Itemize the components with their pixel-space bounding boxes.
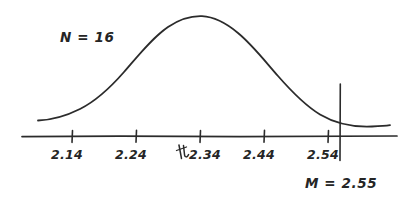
x-tick-label-3: 2.34 (189, 147, 221, 162)
distribution-figure: 2.14 2.24 2.34 2.44 2.54 N = 16 M = 2.55 (0, 0, 412, 199)
x-tick-label-1: 2.14 (51, 147, 83, 162)
tick-mark-3 (200, 131, 201, 143)
tick-mark-2 (136, 130, 137, 142)
sample-mean-annotation: M = 2.55 (305, 175, 377, 191)
tick-mark-5 (328, 131, 329, 143)
mu-marker-glyph (177, 145, 189, 159)
tick-mark-1 (72, 131, 73, 143)
x-tick-label-2: 2.24 (115, 147, 147, 162)
x-tick-label-5: 2.54 (307, 147, 339, 162)
x-tick-label-4: 2.44 (243, 147, 275, 162)
tick-mark-4 (264, 130, 265, 142)
sample-size-annotation: N = 16 (60, 29, 114, 45)
